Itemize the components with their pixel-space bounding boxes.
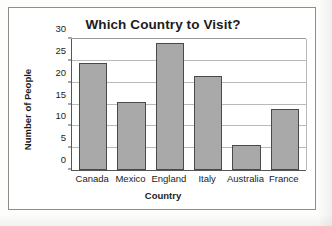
- bar-slot: [151, 39, 189, 170]
- x-axis-title: Country: [9, 190, 317, 201]
- x-tick-label-france: France: [265, 173, 303, 184]
- y-tick-label-20: 20: [55, 66, 66, 77]
- x-tick-label-mexico: Mexico: [111, 173, 149, 184]
- bar-canada: [79, 63, 107, 170]
- bar-slot: [189, 39, 227, 170]
- bar-slot: [74, 39, 112, 170]
- y-tick-label-25: 25: [55, 44, 66, 55]
- y-tick-label-30: 30: [55, 23, 66, 34]
- x-tick-label-italy: Italy: [188, 173, 226, 184]
- x-tick-label-england: England: [150, 173, 188, 184]
- bar-slot: [227, 39, 265, 170]
- bar-series: [72, 39, 306, 170]
- plot-area: 051015202530: [71, 39, 306, 171]
- x-tick-label-canada: Canada: [73, 173, 111, 184]
- bar-slot: [112, 39, 150, 170]
- y-tick-label-15: 15: [55, 88, 66, 99]
- grid-right-edge: [306, 39, 307, 170]
- chart-frame: Which Country to Visit? Number of People…: [8, 7, 316, 210]
- bar-slot: [266, 39, 304, 170]
- y-tick-label-5: 5: [61, 132, 66, 143]
- y-tick-label-0: 0: [61, 154, 66, 165]
- bar-france: [271, 109, 299, 170]
- x-axis-ticks: CanadaMexicoEnglandItalyAustraliaFrance: [71, 173, 305, 184]
- x-tick-label-australia: Australia: [226, 173, 264, 184]
- bar-italy: [194, 76, 222, 170]
- scanned-page: Which Country to Visit? Number of People…: [0, 0, 332, 226]
- bar-england: [156, 43, 184, 170]
- y-axis-title: Number of People: [22, 45, 33, 175]
- bar-australia: [232, 145, 260, 170]
- y-tick-label-10: 10: [55, 110, 66, 121]
- bar-mexico: [117, 102, 145, 170]
